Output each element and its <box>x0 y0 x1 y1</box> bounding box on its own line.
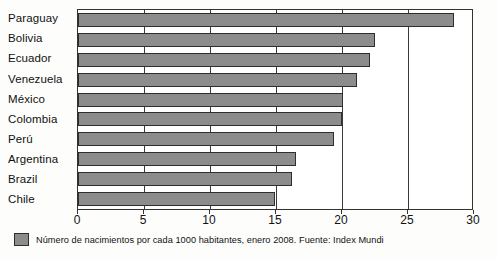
bar <box>78 33 375 47</box>
bar-row <box>78 10 472 30</box>
bar-row <box>78 70 472 90</box>
x-tick-label: 20 <box>334 213 347 227</box>
x-tick-label: 15 <box>268 213 281 227</box>
category-label: Argentina <box>0 150 73 170</box>
bar-row <box>78 110 472 130</box>
category-label: Brazil <box>0 170 73 190</box>
category-label: Paraguay <box>0 9 73 29</box>
plot-area: ParaguayBoliviaEcuadorVenezuelaMéxicoCol… <box>0 0 497 225</box>
chart-legend: Número de nacimientos por cada 1000 habi… <box>14 233 384 246</box>
bar <box>78 13 454 27</box>
category-label: Ecuador <box>0 49 73 69</box>
bar-row <box>78 149 472 169</box>
bar <box>78 93 343 107</box>
bar-row <box>78 189 472 209</box>
x-tick-label: 30 <box>466 213 479 227</box>
bar <box>78 152 296 166</box>
bar <box>78 192 275 206</box>
bar-row <box>78 129 472 149</box>
plot-frame <box>77 9 473 210</box>
bar <box>78 112 342 126</box>
category-label: Bolivia <box>0 29 73 49</box>
category-label: México <box>0 89 73 109</box>
x-tick-label: 0 <box>74 213 81 227</box>
bar <box>78 172 292 186</box>
bar-series <box>78 10 472 209</box>
category-label: Colombia <box>0 109 73 129</box>
category-label: Perú <box>0 130 73 150</box>
x-tick-label: 10 <box>202 213 215 227</box>
category-label: Venezuela <box>0 69 73 89</box>
legend-swatch-icon <box>14 233 29 246</box>
bar-row <box>78 90 472 110</box>
legend-label: Número de nacimientos por cada 1000 habi… <box>36 235 384 245</box>
category-label: Chile <box>0 190 73 210</box>
bar <box>78 73 357 87</box>
bar <box>78 53 370 67</box>
bar-row <box>78 169 472 189</box>
bar <box>78 132 334 146</box>
category-axis-labels: ParaguayBoliviaEcuadorVenezuelaMéxicoCol… <box>0 9 73 210</box>
x-axis: 051015202530 <box>77 210 473 228</box>
x-tick-label: 25 <box>400 213 413 227</box>
bar-row <box>78 30 472 50</box>
x-tick-label: 5 <box>140 213 147 227</box>
bar-chart: ParaguayBoliviaEcuadorVenezuelaMéxicoCol… <box>0 0 497 259</box>
bar-row <box>78 50 472 70</box>
